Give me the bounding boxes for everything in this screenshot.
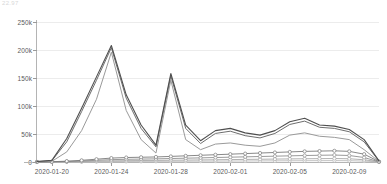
series-line bbox=[37, 46, 379, 162]
x-tick-label: 2020-02-09 bbox=[332, 168, 366, 175]
series-marker bbox=[273, 155, 276, 158]
series-marker bbox=[184, 154, 187, 157]
series-marker bbox=[318, 157, 321, 160]
series-marker bbox=[333, 157, 336, 160]
series-marker bbox=[288, 150, 291, 153]
y-tick-mark bbox=[33, 78, 37, 79]
series-marker bbox=[303, 154, 306, 157]
series-line bbox=[37, 52, 379, 162]
x-tick-mark bbox=[290, 163, 291, 166]
series-marker bbox=[139, 156, 142, 159]
x-tick-label: 2020-02-05 bbox=[273, 168, 307, 175]
series-marker bbox=[258, 155, 261, 158]
series-marker bbox=[169, 155, 172, 158]
y-tick-mark bbox=[33, 22, 37, 23]
series-marker bbox=[363, 153, 366, 156]
series-marker bbox=[95, 158, 98, 161]
y-tick-mark bbox=[33, 134, 37, 135]
x-tick-mark bbox=[111, 163, 112, 166]
series-marker bbox=[318, 149, 321, 152]
series-marker bbox=[229, 153, 232, 156]
series-marker bbox=[110, 156, 113, 159]
series-marker bbox=[199, 154, 202, 157]
y-tick-mark bbox=[33, 162, 37, 163]
x-tick-mark bbox=[349, 163, 350, 166]
series-marker bbox=[348, 150, 351, 153]
series-marker bbox=[125, 156, 128, 159]
series-lines-layer bbox=[0, 0, 387, 184]
x-tick-mark bbox=[171, 163, 172, 166]
series-marker bbox=[288, 157, 291, 160]
series-marker bbox=[318, 154, 321, 157]
x-tick-label: 2020-01-20 bbox=[35, 168, 69, 175]
y-tick-mark bbox=[33, 106, 37, 107]
x-tick-label: 2020-01-28 bbox=[154, 168, 188, 175]
series-marker bbox=[258, 151, 261, 154]
series-marker bbox=[288, 154, 291, 157]
x-tick-mark bbox=[52, 163, 53, 166]
x-tick-label: 2020-01-24 bbox=[94, 168, 128, 175]
series-marker bbox=[348, 157, 351, 160]
series-marker bbox=[244, 155, 247, 158]
line-chart: 22.97 050k100k150k200k250k 2020-01-20202… bbox=[0, 0, 387, 184]
series-marker bbox=[214, 153, 217, 156]
series-line bbox=[37, 48, 379, 162]
series-marker bbox=[303, 157, 306, 160]
series-marker bbox=[273, 151, 276, 154]
series-marker bbox=[363, 156, 366, 159]
series-marker bbox=[80, 159, 83, 162]
x-tick-label: 2020-02-01 bbox=[213, 168, 247, 175]
series-marker bbox=[244, 152, 247, 155]
x-tick-mark bbox=[230, 163, 231, 166]
series-marker bbox=[348, 154, 351, 157]
series-marker bbox=[65, 160, 68, 163]
series-marker bbox=[154, 155, 157, 158]
series-marker bbox=[303, 150, 306, 153]
series-marker bbox=[333, 153, 336, 156]
series-marker bbox=[333, 149, 336, 152]
y-tick-mark bbox=[33, 50, 37, 51]
